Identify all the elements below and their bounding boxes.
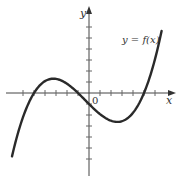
cubic-function-graph: y x 0 y = f(x) xyxy=(0,0,183,178)
x-axis-label: x xyxy=(166,94,173,107)
function-curve xyxy=(12,31,162,156)
y-axis-label: y xyxy=(79,7,87,20)
y-axis-arrow-icon xyxy=(86,6,92,14)
origin-label: 0 xyxy=(92,95,98,106)
function-label: y = f(x) xyxy=(121,34,160,45)
